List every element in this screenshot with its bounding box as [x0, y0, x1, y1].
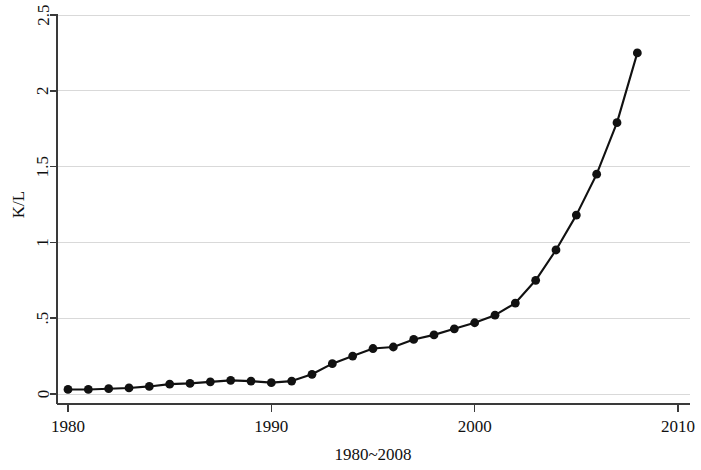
data-point — [267, 378, 276, 387]
data-point — [369, 344, 378, 353]
data-point — [389, 343, 398, 352]
y-tick-label: .5 — [34, 312, 53, 325]
y-tick-label: 1.5 — [34, 156, 53, 177]
data-point — [450, 324, 459, 333]
data-point — [633, 49, 642, 58]
data-series — [64, 49, 642, 394]
data-point — [104, 384, 113, 393]
y-tick-label: 1 — [34, 238, 53, 247]
data-point — [84, 385, 93, 394]
y-axis-tick-labels: 0.511.522.5 — [34, 4, 53, 398]
data-point — [592, 170, 601, 179]
data-point — [145, 382, 154, 391]
data-point — [328, 359, 337, 368]
data-point — [308, 370, 317, 379]
data-point — [64, 385, 73, 394]
series-line — [68, 53, 637, 390]
x-tick-label: 1980 — [51, 417, 85, 436]
data-point — [125, 384, 134, 393]
data-point — [430, 330, 439, 339]
data-point — [287, 377, 296, 386]
data-point — [247, 377, 256, 386]
data-point — [165, 380, 174, 389]
line-chart: 0.511.522.5 1980199020002010 K/L 1980~20… — [0, 0, 701, 470]
y-tick-label: 0 — [34, 390, 53, 399]
chart-figure: 0.511.522.5 1980199020002010 K/L 1980~20… — [0, 0, 701, 470]
x-axis-title: 1980~2008 — [334, 445, 411, 464]
x-tick-label: 2000 — [458, 417, 492, 436]
x-axis-tick-labels: 1980199020002010 — [51, 417, 695, 436]
data-point — [511, 299, 520, 308]
data-point — [613, 118, 622, 127]
data-point — [470, 318, 479, 327]
data-point — [348, 352, 357, 361]
y-tick-label: 2 — [34, 87, 53, 96]
data-point — [531, 276, 540, 285]
y-axis-title: K/L — [9, 191, 28, 218]
data-point — [552, 246, 561, 255]
gridlines — [57, 15, 690, 394]
y-tick-label: 2.5 — [34, 4, 53, 25]
data-point — [409, 335, 418, 344]
x-tick-label: 2010 — [661, 417, 695, 436]
x-tick-label: 1990 — [254, 417, 288, 436]
data-point — [572, 211, 581, 220]
data-point — [491, 311, 500, 320]
data-point — [186, 379, 195, 388]
data-point — [226, 376, 235, 385]
data-point — [206, 377, 215, 386]
